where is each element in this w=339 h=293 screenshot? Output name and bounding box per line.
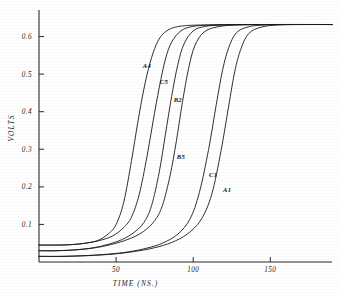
x-axis-title: TIME (NS.)	[113, 279, 159, 288]
y-tick-label: 0.4	[22, 108, 32, 116]
chart-figure: 0.10.20.30.40.50.6 50100150 A4C5B2B5C1A1…	[0, 0, 339, 293]
curve-label-c1: C1	[209, 171, 217, 178]
y-tick-label: 0.6	[22, 33, 32, 41]
curve-label-b5: B5	[176, 153, 186, 160]
chart-background	[0, 0, 339, 293]
y-tick-label: 0.5	[22, 71, 32, 79]
curve-label-c5: C5	[160, 78, 169, 85]
y-axis-title: VOLTS	[7, 115, 16, 142]
curve-label-b2: B2	[173, 96, 183, 103]
y-tick-label: 0.2	[22, 183, 32, 191]
x-tick-label: 50	[112, 266, 120, 274]
curve-label-a4: A4	[142, 62, 152, 69]
x-tick-label: 150	[264, 266, 276, 274]
x-tick-label: 100	[187, 266, 199, 274]
line-chart: 0.10.20.30.40.50.6 50100150 A4C5B2B5C1A1…	[0, 0, 339, 293]
y-tick-label: 0.3	[22, 146, 32, 154]
curve-label-a1: A1	[222, 186, 231, 193]
y-tick-label: 0.1	[22, 221, 32, 229]
